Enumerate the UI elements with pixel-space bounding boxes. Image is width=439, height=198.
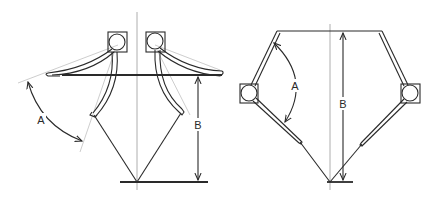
left-lower-arm-inner [96, 52, 117, 116]
right-v-link-left [300, 142, 330, 182]
right-v-link-right [330, 144, 362, 182]
left-angle-a-label: A [37, 114, 45, 126]
left-angle-a-arc [28, 82, 82, 141]
right-upper-arm-inner [158, 51, 220, 76]
right-left-upper-arm-outer [251, 31, 277, 85]
right-right-upper-arm-inner [379, 33, 404, 86]
right-right-hinge-box [401, 84, 420, 103]
right-hinge-pivot [147, 33, 163, 49]
right-right-upper-arm-outer [382, 31, 408, 85]
right-left-upper-arm-inner [255, 33, 280, 86]
left-lower-arm-outer [93, 52, 112, 113]
left-construction-line-b [80, 50, 115, 152]
right-left-hinge-pivot [241, 85, 257, 101]
right-dimension-b-label: B [339, 98, 346, 110]
right-lower-arm-inner [160, 50, 182, 109]
right-right-lower-arm-inner [363, 102, 407, 145]
left-hinge-box [108, 32, 127, 52]
left-construction-line-a [18, 45, 118, 83]
diagram-canvas: B A [0, 0, 439, 198]
left-construction-line-d [157, 50, 190, 115]
right-left-hinge-box [240, 84, 258, 103]
left-v-link-right [137, 113, 181, 182]
right-left-lower-arm-inner [256, 98, 301, 141]
left-figure: B A [18, 12, 223, 190]
right-right-hinge-pivot [402, 85, 418, 101]
left-upper-arm-inner [52, 52, 114, 75]
right-angle-a-label: A [291, 80, 299, 92]
left-v-link-left [94, 115, 137, 182]
right-right-lower-arm-outer [361, 99, 404, 143]
right-figure: B A [240, 24, 420, 190]
left-dimension-b-label: B [194, 119, 201, 131]
left-hinge-pivot [109, 34, 125, 50]
